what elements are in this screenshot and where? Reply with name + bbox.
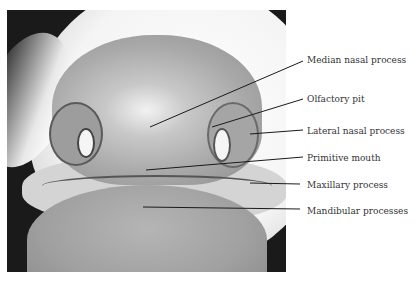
label-lateral-nasal-process: Lateral nasal process xyxy=(307,126,405,136)
label-primitive-mouth: Primitive mouth xyxy=(307,153,381,163)
leader-maxillary xyxy=(250,183,300,184)
leader-lines xyxy=(0,0,417,282)
leader-primitive-mouth xyxy=(146,157,303,170)
label-olfactory-pit: Olfactory pit xyxy=(307,94,365,104)
label-maxillary-process: Maxillary process xyxy=(307,180,388,190)
leader-median-nasal xyxy=(150,61,303,127)
label-mandibular-processes: Mandibular processes xyxy=(307,206,408,216)
leader-olfactory-pit xyxy=(212,99,303,127)
label-median-nasal-process: Median nasal process xyxy=(307,55,406,65)
leader-lateral-nasal xyxy=(250,130,303,134)
leader-mandibular xyxy=(143,207,300,209)
